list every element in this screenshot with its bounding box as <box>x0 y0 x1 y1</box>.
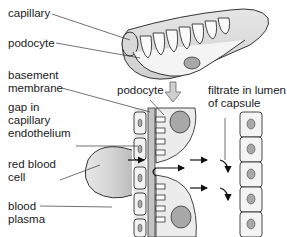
capsule-lining-cells <box>240 112 262 237</box>
down-arrow-icon <box>165 82 181 102</box>
label-blood-plasma: blood plasma <box>8 200 45 226</box>
red-blood-cell <box>85 147 132 198</box>
label-podocyte-center: podocyte <box>117 84 164 97</box>
label-filtrate: filtrate in lumen of capsule <box>208 84 286 110</box>
capillary-endothelium <box>134 108 146 237</box>
label-capillary: capillary <box>8 7 50 20</box>
label-basement-membrane: basement membrane <box>8 69 63 95</box>
basement-membrane <box>148 108 155 237</box>
podocyte-cells <box>156 108 196 237</box>
label-gap-endothelium: gap in capillary endothelium <box>8 101 71 140</box>
podocyte-capillary-illustration <box>122 9 269 79</box>
label-podocyte-left: podocyte <box>8 37 55 50</box>
label-red-blood-cell: red blood cell <box>8 158 56 184</box>
